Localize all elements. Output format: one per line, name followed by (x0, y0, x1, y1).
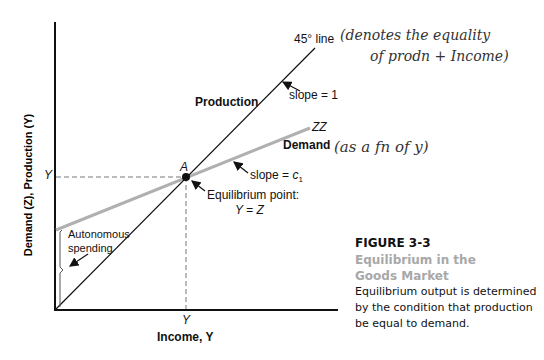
figure-body: Equilibrium output is determined by the … (355, 284, 540, 332)
autonomous-bracket (60, 230, 63, 307)
x-tick-label: Y (182, 313, 190, 327)
equilibrium-point-a (182, 173, 190, 181)
slope-c1-prefix: slope = (250, 168, 292, 182)
figure-number: FIGURE 3-3 (355, 236, 540, 250)
handwritten-note-1-line1: (denotes the equality (340, 27, 490, 43)
label-autonomous-2: spending (68, 242, 113, 254)
handwritten-note-1-line2: of prodn + Income) (370, 48, 509, 64)
label-point-a: A (180, 160, 188, 174)
y-axis-label: Demand (Z), Production (Y) (22, 114, 34, 256)
label-slope-1: slope = 1 (289, 88, 338, 102)
label-equilibrium-2: Y = Z (235, 203, 264, 217)
label-demand: Demand (283, 138, 330, 152)
figure-title-line1: Equilibrium in the (355, 252, 540, 268)
label-45-line: 45° line (294, 32, 334, 46)
label-equilibrium-1: Equilibrium point: (207, 188, 299, 202)
slope-c1-sub: 1 (298, 175, 302, 184)
handwritten-note-2: (as a fn of y) (334, 138, 429, 156)
label-autonomous-1: Autonomous (68, 228, 130, 240)
label-zz: ZZ (312, 120, 327, 134)
arrow-equilibrium (192, 181, 205, 191)
arrow-slope-c1 (234, 162, 248, 173)
label-slope-c1: slope = c1 (250, 168, 303, 184)
label-production: Production (195, 95, 258, 109)
y-tick-label: Y (44, 168, 52, 182)
figure-title-line2: Goods Market (355, 268, 540, 284)
figure-caption: FIGURE 3-3 Equilibrium in the Goods Mark… (355, 236, 540, 332)
x-axis-label: Income, Y (157, 330, 213, 344)
arrow-autonomous (70, 254, 88, 266)
